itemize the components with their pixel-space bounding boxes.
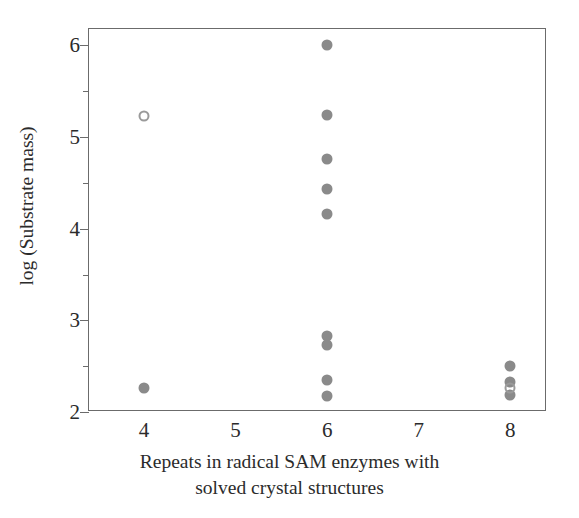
y-axis-major-tick <box>80 137 89 138</box>
data-point <box>505 361 516 372</box>
data-point <box>138 111 149 122</box>
y-axis-major-tick <box>80 320 89 321</box>
y-axis-tick-label: 3 <box>70 310 81 331</box>
data-point <box>322 154 333 165</box>
y-axis-title: log (Substrate mass) <box>14 0 40 411</box>
y-axis-major-tick <box>80 412 89 413</box>
y-axis-tick-label: 6 <box>70 35 81 56</box>
y-axis-minor-tick <box>83 366 89 367</box>
data-point <box>322 374 333 385</box>
data-point <box>322 184 333 195</box>
plot-area: 23456 45678 <box>88 28 546 411</box>
y-axis-minor-tick <box>83 91 89 92</box>
x-axis-tick-label: 5 <box>230 420 241 441</box>
x-axis-tick-label: 8 <box>505 420 516 441</box>
data-point <box>322 390 333 401</box>
scatter-plot-figure: log (Substrate mass) 23456 45678 Repeats… <box>0 0 579 518</box>
y-axis-title-text: log (Substrate mass) <box>16 126 38 285</box>
y-axis-tick-label: 2 <box>70 402 81 423</box>
y-axis-major-tick <box>80 45 89 46</box>
data-point <box>138 383 149 394</box>
data-point <box>505 383 516 394</box>
data-point <box>322 340 333 351</box>
x-axis-title-line-1: Repeats in radical SAM enzymes with <box>0 449 579 475</box>
y-axis-tick-label: 5 <box>70 127 81 148</box>
y-axis-major-tick <box>80 229 89 230</box>
x-axis-tick-label: 6 <box>322 420 333 441</box>
x-axis-title-line-2: solved crystal structures <box>0 475 579 501</box>
x-axis-title: Repeats in radical SAM enzymes with solv… <box>0 449 579 500</box>
y-axis-minor-tick <box>83 183 89 184</box>
y-axis-tick-label: 4 <box>70 218 81 239</box>
data-point <box>322 39 333 50</box>
x-axis-tick-label: 7 <box>414 420 425 441</box>
data-point <box>322 110 333 121</box>
y-axis-minor-tick <box>83 275 89 276</box>
data-point <box>322 209 333 220</box>
x-axis-tick-label: 4 <box>139 420 150 441</box>
